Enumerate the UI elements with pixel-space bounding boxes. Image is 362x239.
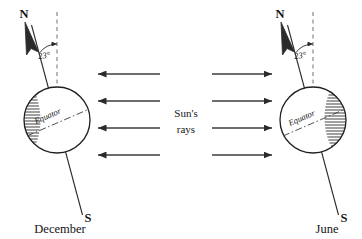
sun-rays-group: Sun's rays (98, 74, 272, 155)
earth-tilt-diagram: Equator 23° N S December (0, 0, 362, 239)
sun-rays-label-line2: rays (177, 123, 195, 135)
sun-rays-right-group (212, 74, 272, 155)
north-pole-label-december: N (19, 7, 28, 21)
sun-rays-label-line1: Sun's (174, 107, 197, 119)
sun-rays-left-group (98, 74, 160, 155)
season-label-december: December (34, 222, 86, 236)
south-pole-label-june: S (341, 211, 348, 225)
june-globe-group: Equator 23° N S June (275, 7, 349, 236)
tilt-angle-label-december: 23° (37, 49, 51, 61)
tilt-angle-label-june: 23° (293, 49, 307, 61)
december-globe-group: Equator 23° N S December (19, 7, 92, 236)
diagram-canvas: Equator 23° N S December (0, 0, 362, 239)
season-label-june: June (316, 222, 339, 236)
north-pole-label-june: N (275, 7, 284, 21)
